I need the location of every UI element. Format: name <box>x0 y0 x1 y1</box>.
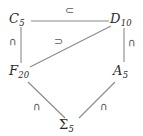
node-d10-base: D <box>110 11 120 26</box>
subgroup-lattice-diagram: C5 D10 F20 A5 Σ5 ⊂ ∩ ⊃ ∩ ∩ ∩ <box>0 0 143 136</box>
subset-symbol-c5-d10: ⊂ <box>65 5 74 16</box>
node-c5-subscript: 5 <box>19 18 24 28</box>
intersection-symbol-f20-sigma5: ∩ <box>33 101 41 112</box>
node-label-c5: C5 <box>9 12 24 25</box>
node-f20-subscript: 20 <box>18 70 29 80</box>
intersection-symbol-a5-sigma5: ∩ <box>100 101 108 112</box>
node-f20-base: F <box>9 63 18 78</box>
node-label-d10: D10 <box>110 12 131 25</box>
node-a5-base: A <box>113 63 122 78</box>
intersection-symbol-c5-f20: ∩ <box>9 36 17 47</box>
node-sigma5-base: Σ <box>59 117 68 132</box>
node-sigma5-subscript: 5 <box>69 124 74 134</box>
edge-f20-d10 <box>30 26 111 67</box>
edge-a5-sigma5 <box>79 82 115 118</box>
node-label-sigma5: Σ5 <box>59 118 74 131</box>
node-label-a5: A5 <box>113 64 128 77</box>
node-c5-base: C <box>9 11 19 26</box>
superset-symbol-f20-d10: ⊃ <box>54 36 63 47</box>
node-label-f20: F20 <box>9 64 29 77</box>
node-d10-subscript: 10 <box>121 18 132 28</box>
intersection-symbol-d10-a5: ∩ <box>128 37 136 48</box>
node-a5-subscript: 5 <box>123 70 128 80</box>
